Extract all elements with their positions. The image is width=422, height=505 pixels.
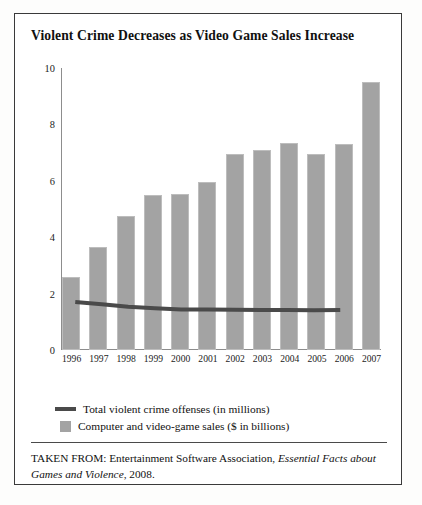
x-tick-label: 2007 [362,353,380,364]
divider [31,442,387,443]
chart-title: Violent Crime Decreases as Video Game Sa… [31,28,387,44]
x-tick-label: 1996 [62,353,80,364]
x-tick-label: 2006 [335,353,353,364]
bar [117,216,135,350]
figure-frame: Violent Crime Decreases as Video Game Sa… [14,13,402,485]
bar [280,143,298,350]
bar [62,277,80,350]
bar-column [226,68,244,350]
bar-column [89,68,107,350]
y-tick-label: 2 [50,288,55,299]
x-tick-label: 2005 [307,353,325,364]
bar [89,247,107,350]
bar-swatch-icon [60,421,71,432]
bar [171,194,189,351]
bar-column [362,68,380,350]
source-caption: TAKEN FROM: Entertainment Software Assoc… [31,451,383,482]
y-tick-label: 10 [45,63,55,74]
plot-area: 0246810 19961997199819992000200120022003… [31,56,387,366]
bar [144,195,162,350]
bar [253,150,271,350]
bar-column [171,68,189,350]
x-tick-label: 1999 [144,353,162,364]
bar-column [198,68,216,350]
x-tick-label: 2002 [226,353,244,364]
bar-series [62,68,380,350]
source-prefix: TAKEN FROM: Entertainment Software Assoc… [31,452,278,464]
bar-column [307,68,325,350]
line-swatch-icon [55,407,76,411]
y-tick-label: 8 [50,119,55,130]
chart-legend: Total violent crime offenses (in million… [55,402,375,436]
x-tick-label: 1997 [89,353,107,364]
legend-item-line: Total violent crime offenses (in million… [55,402,375,416]
legend-label-line: Total violent crime offenses (in million… [83,403,270,415]
legend-item-bar: Computer and video-game sales ($ in bill… [55,419,375,433]
x-tick-label: 2000 [171,353,189,364]
x-tick-label: 1998 [117,353,135,364]
x-tick-label: 2003 [253,353,271,364]
x-tick-label: 2001 [198,353,216,364]
bar [335,144,353,350]
legend-label-bar: Computer and video-game sales ($ in bill… [78,420,289,432]
bar [198,182,216,350]
bar-column [253,68,271,350]
bar [362,82,380,350]
bar-column [335,68,353,350]
y-tick-label: 4 [50,232,55,243]
bar [307,154,325,350]
bar [226,154,244,350]
bar-column [62,68,80,350]
source-suffix: , 2008. [124,468,155,480]
y-tick-label: 0 [50,345,55,356]
x-tick-label: 2004 [280,353,298,364]
y-tick-label: 6 [50,175,55,186]
bar-column [280,68,298,350]
bar-column [144,68,162,350]
bar-column [117,68,135,350]
figure-page: Violent Crime Decreases as Video Game Sa… [0,0,422,505]
x-axis-tick-labels: 1996199719981999200020012002200320042005… [62,353,380,364]
